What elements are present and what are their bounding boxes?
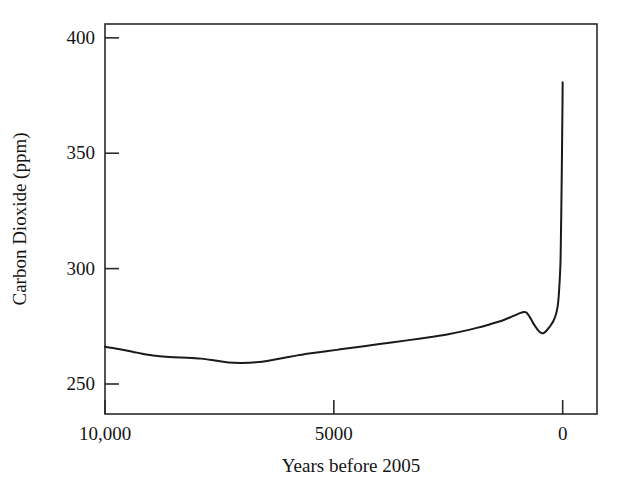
x-tick-label: 0	[503, 424, 623, 443]
y-tick-label: 250	[0, 374, 95, 393]
x-tick-label: 5000	[274, 424, 394, 443]
chart-plot-area	[0, 0, 626, 493]
chart-background	[0, 0, 626, 493]
y-tick-label: 300	[0, 259, 95, 278]
y-axis-title: Carbon Dioxide (ppm)	[0, 24, 40, 414]
co2-chart-figure: Carbon Dioxide (ppm) Years before 2005 4…	[0, 0, 626, 493]
y-tick-label: 350	[0, 143, 95, 162]
x-axis-title: Years before 2005	[105, 455, 597, 477]
x-axis-title-text: Years before 2005	[282, 455, 420, 476]
x-tick-label: 10,000	[45, 424, 165, 443]
y-tick-label: 400	[0, 28, 95, 47]
